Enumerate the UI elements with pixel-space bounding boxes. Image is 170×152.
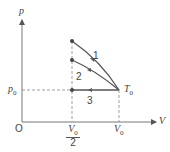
diagram-canvas (0, 0, 170, 152)
p0-label: p0 (8, 84, 17, 97)
state-point-1 (70, 39, 74, 43)
t0-label: T0 (124, 84, 133, 97)
pv-diagram: p V O p0 V0 2 V0 T0 1 2 3 (0, 0, 170, 152)
process-3-label: 3 (87, 96, 93, 106)
process-3-arrow (88, 88, 92, 92)
half-v0-label: V0 2 (66, 124, 80, 148)
state-point-3 (70, 88, 74, 92)
v0-label: V0 (114, 124, 124, 137)
process-1-label: 1 (93, 51, 99, 61)
origin-label: O (15, 124, 23, 134)
process-1-curve (72, 41, 119, 90)
state-point-2 (70, 58, 74, 62)
process-2-label: 2 (76, 72, 82, 82)
x-axis-label: V (159, 116, 165, 126)
y-axis-label: p (19, 6, 24, 16)
